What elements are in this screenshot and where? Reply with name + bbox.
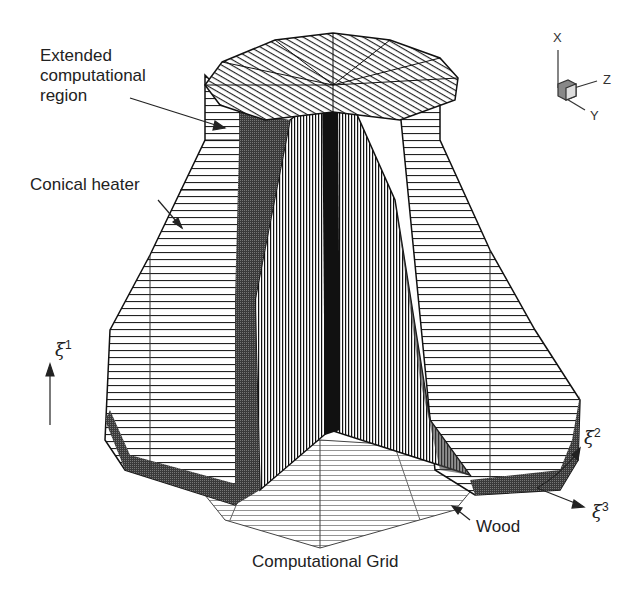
label-conical-heater: Conical heater (30, 175, 140, 195)
figure-title: Computational Grid (252, 552, 398, 572)
orientation-triad (558, 50, 597, 110)
triad-z-label: Z (603, 72, 611, 87)
xi2-label: ξ2 (584, 426, 601, 448)
triad-x-label: X (553, 30, 562, 45)
label-extended-region: Extended computational region (40, 46, 146, 106)
xi1-label: ξ1 (55, 338, 72, 360)
label-wood: Wood (476, 517, 520, 537)
xi3-label: ξ3 (592, 500, 609, 522)
top-cap (205, 33, 458, 120)
left-cone-face (105, 75, 250, 505)
triad-y-label: Y (590, 108, 599, 123)
